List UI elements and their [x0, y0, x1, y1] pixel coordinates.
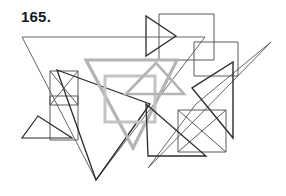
dark-long-diagonal-triangle — [146, 104, 206, 156]
gray-large-triangle — [86, 60, 177, 148]
overlapping-shapes-drawing — [0, 0, 286, 196]
gray-inner-rectangle — [105, 76, 155, 122]
shape-group — [22, 14, 271, 180]
arrow-triangle-top — [146, 16, 176, 56]
figure-page: 165. — [0, 0, 286, 196]
figure-number-label: 165. — [21, 8, 51, 25]
dark-bowtie-triangle-right — [192, 62, 233, 138]
top-right-rectangle-small — [194, 42, 238, 76]
